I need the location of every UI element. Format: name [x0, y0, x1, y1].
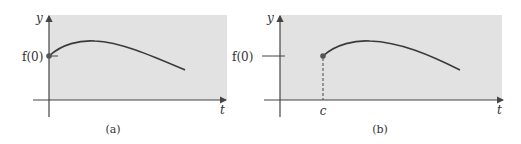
shaded-region	[280, 15, 502, 100]
panel-caption: (a)	[105, 123, 120, 136]
initial-point	[46, 53, 52, 59]
y-axis-label: y	[35, 11, 43, 25]
shaded-region	[49, 15, 227, 100]
y-axis-label: y	[266, 11, 274, 25]
x-axis-label: t	[497, 103, 502, 117]
y-tick-label: f(0)	[22, 50, 43, 64]
initial-point	[320, 53, 326, 59]
panel-b: y t f(0) c (b)	[232, 11, 503, 136]
panel-a: y t f(0) (a)	[22, 11, 227, 136]
diagram-canvas: y t f(0) (a) y t f(0) c (b)	[0, 0, 521, 144]
x-tick-label: c	[320, 104, 327, 118]
x-axis-label: t	[220, 103, 225, 117]
panel-caption: (b)	[372, 123, 388, 136]
y-tick-label: f(0)	[232, 50, 253, 64]
